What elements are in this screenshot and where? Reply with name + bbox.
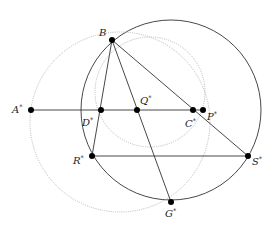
label-b: B [98, 27, 106, 38]
points-layer [28, 37, 251, 205]
label-d: D* [81, 116, 94, 128]
label-p: P* [206, 110, 218, 122]
inner-dotted-circle [95, 37, 205, 147]
segments-layer [31, 40, 248, 202]
label-r: R* [72, 154, 85, 166]
label-a: A* [11, 103, 23, 115]
point-b [109, 37, 115, 43]
point-a [28, 107, 34, 113]
point-d [98, 107, 104, 113]
outer-dotted-circle [30, 32, 210, 212]
segment-b-g [112, 40, 171, 202]
segment-b-s [112, 40, 248, 156]
point-q [134, 107, 140, 113]
segment-b-r [92, 40, 112, 156]
point-p [200, 107, 206, 113]
point-s [245, 153, 251, 159]
label-s: S* [252, 155, 263, 167]
label-c: C* [185, 117, 197, 129]
point-r [89, 153, 95, 159]
labels-layer: BA*D*Q*C*P*R*S*G* [11, 27, 263, 219]
point-g [168, 199, 174, 205]
point-c [190, 107, 196, 113]
circles-layer [30, 20, 261, 212]
geometry-diagram: BA*D*Q*C*P*R*S*G* [0, 0, 273, 230]
label-g: G* [165, 207, 177, 219]
label-q: Q* [140, 94, 152, 106]
